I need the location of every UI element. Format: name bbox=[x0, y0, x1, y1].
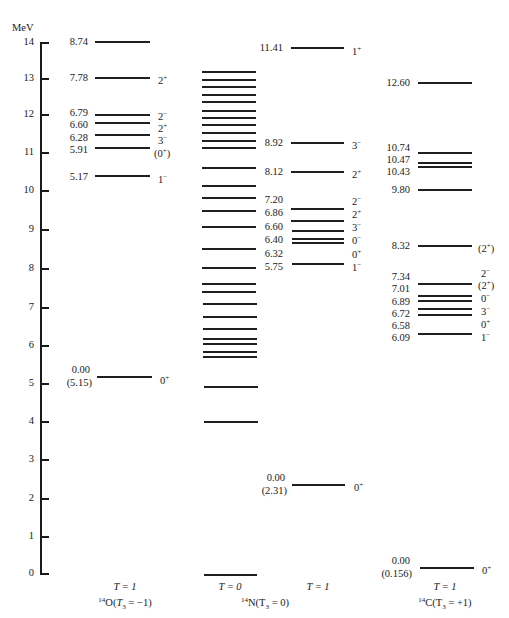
tick-label-2: 2 bbox=[4, 492, 34, 504]
energy-label: 6.32 bbox=[245, 248, 283, 260]
level-line bbox=[202, 71, 256, 73]
spin-parity-label: 1− bbox=[481, 329, 490, 344]
level-line bbox=[202, 283, 256, 285]
tick-11 bbox=[41, 152, 49, 154]
isospin-label: T = 1 bbox=[415, 581, 475, 592]
isospin-label: T = 1 bbox=[288, 581, 348, 592]
energy-label: 7.34 bbox=[370, 271, 410, 283]
spin-parity-label: (2+) bbox=[478, 240, 494, 255]
energy-label: 10.47 bbox=[370, 154, 410, 166]
tick-label-1: 1 bbox=[4, 530, 34, 542]
level-line bbox=[291, 142, 344, 144]
axis-line bbox=[40, 42, 42, 575]
energy-label: 0.00 bbox=[50, 364, 90, 376]
level-line bbox=[291, 47, 344, 49]
energy-label: 8.12 bbox=[245, 166, 283, 178]
ground-offset-label: (5.15) bbox=[50, 377, 92, 389]
level-line bbox=[418, 283, 472, 285]
spin-parity-label: 0+ bbox=[354, 479, 363, 494]
level-line bbox=[202, 117, 256, 119]
energy-label: 7.78 bbox=[50, 72, 88, 84]
spin-parity-label: 0− bbox=[352, 232, 361, 247]
spin-parity-label: 1− bbox=[352, 259, 361, 274]
level-line bbox=[203, 338, 257, 340]
level-line bbox=[420, 567, 474, 569]
spin-parity-label: (0+) bbox=[154, 145, 170, 160]
energy-label: 6.40 bbox=[245, 234, 283, 246]
energy-label: 6.60 bbox=[245, 221, 283, 233]
level-line bbox=[204, 386, 258, 388]
nucleus-label: 14O(T3 = −1) bbox=[80, 596, 170, 611]
tick-label-11: 11 bbox=[4, 146, 34, 158]
tick-label-9: 9 bbox=[4, 223, 34, 235]
level-line bbox=[204, 421, 258, 423]
level-line bbox=[95, 41, 150, 43]
level-line bbox=[202, 101, 256, 103]
axis-unit-label: MeV bbox=[12, 22, 34, 33]
tick-3 bbox=[41, 459, 49, 461]
energy-label: 9.80 bbox=[370, 184, 410, 196]
level-line bbox=[204, 574, 257, 576]
tick-label-7: 7 bbox=[4, 301, 34, 313]
energy-label: 8.74 bbox=[50, 36, 88, 48]
energy-label: 6.58 bbox=[370, 320, 410, 332]
tick-label-13: 13 bbox=[4, 72, 34, 84]
tick-2 bbox=[41, 498, 49, 500]
tick-label-4: 4 bbox=[4, 415, 34, 427]
level-line bbox=[202, 94, 256, 96]
energy-label: 6.60 bbox=[50, 119, 88, 131]
level-line bbox=[418, 152, 472, 154]
level-line bbox=[203, 351, 257, 353]
level-line bbox=[95, 147, 150, 149]
tick-10 bbox=[41, 190, 49, 192]
tick-label-14: 14 bbox=[4, 36, 34, 48]
tick-label-3: 3 bbox=[4, 453, 34, 465]
energy-label: 6.72 bbox=[370, 308, 410, 320]
tick-14 bbox=[41, 42, 49, 44]
isospin-label: T = 0 bbox=[200, 581, 260, 592]
level-line bbox=[292, 230, 344, 232]
level-line bbox=[418, 333, 472, 335]
energy-label: 10.43 bbox=[370, 166, 410, 178]
level-line bbox=[291, 171, 344, 173]
energy-label: 7.01 bbox=[370, 283, 410, 295]
level-line bbox=[291, 208, 344, 210]
level-line bbox=[418, 300, 472, 302]
energy-label: 0.00 bbox=[370, 555, 410, 567]
tick-12 bbox=[41, 114, 49, 116]
level-line bbox=[97, 376, 152, 378]
level-line bbox=[202, 79, 256, 81]
tick-9 bbox=[41, 229, 49, 231]
spin-parity-label: 1− bbox=[158, 171, 167, 186]
level-line bbox=[203, 343, 257, 345]
level-line bbox=[418, 82, 472, 84]
energy-label: 7.20 bbox=[245, 194, 283, 206]
level-line bbox=[292, 238, 344, 240]
tick-label-10: 10 bbox=[4, 184, 34, 196]
spin-parity-label: 2+ bbox=[158, 72, 167, 87]
energy-label: 6.09 bbox=[370, 332, 410, 344]
energy-label: 6.28 bbox=[50, 132, 88, 144]
spin-parity-label: 2+ bbox=[352, 166, 361, 181]
level-line bbox=[95, 122, 150, 124]
level-line bbox=[418, 295, 472, 297]
spin-parity-label: 3− bbox=[352, 137, 361, 152]
spin-parity-label: 0+ bbox=[482, 562, 491, 577]
level-line bbox=[292, 242, 344, 244]
level-line bbox=[203, 328, 257, 330]
level-line bbox=[202, 86, 256, 88]
level-line bbox=[418, 245, 472, 247]
tick-0 bbox=[41, 573, 49, 575]
level-line bbox=[418, 308, 472, 310]
energy-label: 5.17 bbox=[50, 171, 88, 183]
tick-6 bbox=[41, 345, 49, 347]
level-line bbox=[418, 314, 472, 316]
level-line bbox=[202, 110, 256, 112]
nucleus-label: 14C(T3 = +1) bbox=[395, 596, 495, 611]
energy-label: 12.60 bbox=[370, 77, 410, 89]
tick-1 bbox=[41, 536, 49, 538]
level-line bbox=[418, 166, 472, 168]
level-line bbox=[202, 291, 256, 293]
tick-label-0: 0 bbox=[4, 567, 34, 579]
spin-parity-label: 1+ bbox=[352, 43, 361, 58]
